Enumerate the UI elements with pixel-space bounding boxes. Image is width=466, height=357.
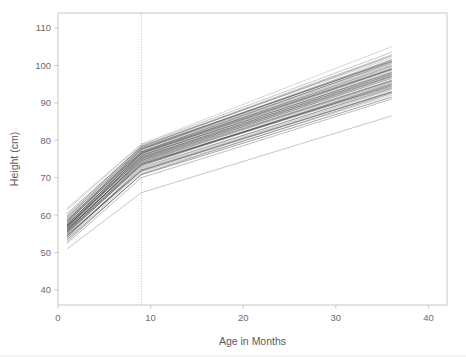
- subject-trajectory: [67, 84, 391, 234]
- y-tick-label: 100: [35, 60, 51, 71]
- subject-trajectory: [67, 72, 391, 225]
- x-tick-label: 40: [423, 312, 434, 323]
- subject-trajectory: [67, 82, 391, 232]
- y-tick-label: 110: [36, 22, 51, 33]
- y-axis-title: Height (cm): [8, 132, 20, 186]
- subject-trajectory: [67, 80, 391, 228]
- subject-trajectory: [67, 76, 391, 227]
- subject-trajectory: [67, 83, 391, 232]
- x-tick-label: 20: [238, 312, 249, 323]
- subject-trajectory: [67, 89, 391, 237]
- subject-trajectory: [67, 90, 391, 235]
- subject-trajectory: [67, 77, 391, 228]
- subject-trajectory: [67, 75, 391, 227]
- subject-trajectory: [67, 116, 391, 249]
- y-tick-label: 80: [40, 135, 51, 146]
- x-tick-label: 30: [331, 312, 342, 323]
- x-tick-label: 0: [55, 312, 60, 323]
- subject-trajectory: [67, 97, 391, 239]
- y-tick-label: 90: [40, 97, 51, 108]
- subject-trajectory: [67, 87, 391, 232]
- chart-figure: 405060708090100110010203040Age in Months…: [0, 0, 466, 357]
- y-tick-label: 70: [40, 172, 51, 183]
- y-tick-label: 50: [40, 247, 51, 258]
- subject-trajectory: [67, 92, 391, 236]
- y-tick-label: 60: [40, 210, 51, 221]
- subject-trajectory: [67, 70, 391, 227]
- subject-trajectory: [67, 92, 391, 235]
- subject-trajectory: [67, 65, 391, 220]
- y-tick-label: 40: [40, 284, 51, 295]
- x-axis-title: Age in Months: [219, 335, 286, 347]
- subject-trajectory: [67, 93, 391, 241]
- x-tick-label: 10: [145, 312, 156, 323]
- spaghetti-chart: 405060708090100110010203040Age in Months…: [0, 0, 466, 357]
